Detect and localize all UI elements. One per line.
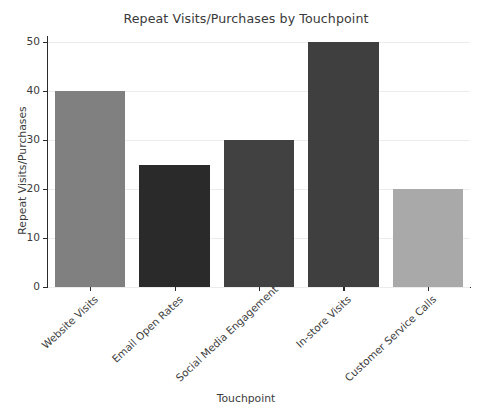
y-tick-mark: [43, 140, 48, 141]
category-label: Social Media Engagement: [173, 293, 269, 384]
y-tick-label: 50: [27, 35, 40, 47]
gridline: [48, 42, 470, 43]
x-tick-mark: [90, 287, 91, 291]
y-tick-label: 20: [27, 182, 40, 194]
category-label: In-store Visits: [258, 293, 354, 384]
bar: [55, 91, 125, 287]
y-tick-label: 30: [27, 133, 40, 145]
y-tick-mark: [43, 238, 48, 239]
chart-figure: Repeat Visits/Purchases by Touchpoint 01…: [0, 0, 492, 418]
y-tick-mark: [43, 42, 48, 43]
y-tick-label: 40: [27, 84, 40, 96]
bar: [224, 140, 294, 287]
x-tick-mark: [259, 287, 260, 291]
y-tick-mark: [43, 91, 48, 92]
x-tick-mark: [343, 287, 344, 291]
bar: [139, 165, 209, 288]
x-axis-label: Touchpoint: [0, 392, 492, 405]
y-tick-mark: [43, 287, 48, 288]
x-tick-mark: [175, 287, 176, 291]
y-tick-mark: [43, 189, 48, 190]
x-tick-mark: [428, 287, 429, 291]
category-label: Website Visits: [4, 293, 100, 384]
y-tick-label: 0: [33, 280, 40, 292]
bar: [308, 42, 378, 287]
category-label: Email Open Rates: [89, 293, 185, 384]
y-axis-label: Repeat Visits/Purchases: [16, 106, 29, 236]
category-label: Customer Service Calls: [342, 293, 438, 384]
chart-title: Repeat Visits/Purchases by Touchpoint: [0, 11, 492, 26]
y-tick-label: 10: [27, 231, 40, 243]
bar: [393, 189, 463, 287]
